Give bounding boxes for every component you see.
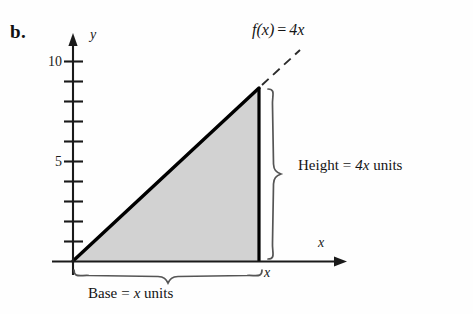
base-value: x bbox=[134, 285, 141, 301]
y-tick-label-5: 5 bbox=[36, 155, 62, 169]
base-units: units bbox=[144, 285, 173, 301]
y-axis-arrowhead bbox=[68, 33, 77, 46]
panel-letter: b. bbox=[10, 22, 26, 41]
base-annotation-label: Base=x units bbox=[88, 286, 173, 301]
height-value: 4x bbox=[355, 157, 369, 173]
figure-container: b. y x 10 5 f(x)=4x Height=4x units Base… bbox=[0, 0, 473, 314]
function-expression: 4x bbox=[289, 21, 304, 38]
height-brace bbox=[268, 89, 281, 259]
x-axis-arrowhead bbox=[334, 257, 347, 267]
function-dashed-extension bbox=[262, 50, 300, 85]
height-equals-sign: = bbox=[339, 157, 355, 173]
function-equation-label: f(x)=4x bbox=[252, 22, 304, 38]
base-endpoint-x-label: x bbox=[264, 266, 270, 280]
height-word: Height bbox=[298, 157, 339, 173]
function-name: f(x) bbox=[252, 21, 274, 38]
base-word: Base bbox=[88, 285, 117, 301]
height-annotation-label: Height=4x units bbox=[298, 158, 402, 173]
base-brace bbox=[74, 270, 262, 283]
base-equals-sign: = bbox=[117, 285, 133, 301]
height-units: units bbox=[373, 157, 402, 173]
x-axis-label: x bbox=[318, 236, 324, 250]
function-equals-sign: = bbox=[274, 21, 289, 38]
y-axis-label: y bbox=[90, 28, 96, 42]
y-tick-label-10: 10 bbox=[36, 55, 62, 69]
